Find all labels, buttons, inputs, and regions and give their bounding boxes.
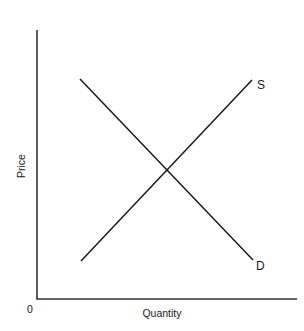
demand-label: D <box>256 259 265 273</box>
supply-label: S <box>257 78 265 92</box>
supply-demand-diagram: S D 0 Quantity Price <box>0 0 304 331</box>
y-axis-label: Price <box>15 154 27 178</box>
origin-label: 0 <box>27 303 33 315</box>
x-axis-label: Quantity <box>142 307 182 319</box>
